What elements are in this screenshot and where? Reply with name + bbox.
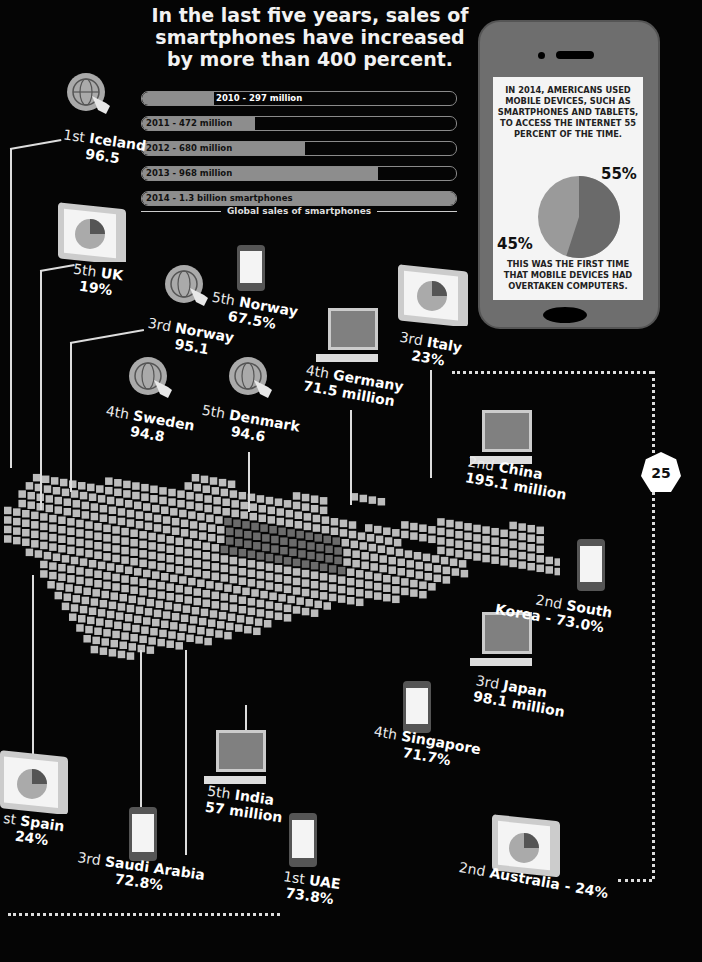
dotted-border	[618, 879, 652, 882]
bar-2011: 2011 - 472 million	[141, 116, 457, 131]
pie-chart-icon	[537, 175, 621, 259]
leader-line	[248, 452, 250, 512]
bar-label: 2012 - 680 million	[146, 142, 232, 155]
leader-line	[430, 370, 432, 478]
bar-2013: 2013 - 968 million	[141, 166, 457, 181]
leader-line	[32, 575, 34, 765]
leader-line	[140, 650, 142, 810]
bar-label: 2011 - 472 million	[146, 117, 232, 130]
home-button-icon	[543, 307, 587, 323]
smartphone-icon	[402, 680, 434, 734]
tablet-pie-icon	[396, 262, 472, 326]
dotted-border	[452, 371, 652, 374]
leader-line	[40, 270, 42, 510]
bar-label: 2010 - 297 million	[216, 92, 302, 105]
smartphone-icon	[128, 806, 160, 862]
caption-text: Global sales of smartphones	[227, 206, 371, 216]
phone-bottom-text: THIS WAS THE FIRST TIME THAT MOBILE DEVI…	[497, 259, 639, 292]
divider	[141, 211, 221, 212]
pct-45: 45%	[497, 235, 533, 253]
bar-label: 2013 - 968 million	[146, 167, 232, 180]
bar-2014: 2014 - 1.3 billion smartphones	[141, 191, 457, 206]
leader-line	[10, 139, 61, 150]
smartphone-icon	[576, 538, 608, 592]
leader-line	[70, 329, 144, 344]
leader-line	[185, 650, 187, 855]
globe-click-icon	[164, 264, 210, 314]
leader-line	[350, 410, 352, 505]
pct-55: 55%	[601, 165, 637, 183]
leader-line	[40, 264, 75, 272]
camera-icon	[538, 52, 545, 59]
dotted-border	[652, 371, 655, 879]
globe-click-icon	[228, 356, 274, 406]
label-iceland: 1st Iceland 96.5	[60, 126, 147, 169]
bar-label: 2014 - 1.3 billion smartphones	[146, 192, 292, 205]
tablet-pie-icon	[56, 200, 128, 262]
phone-top-text: IN 2014, AMERICANS USED MOBILE DEVICES, …	[497, 85, 639, 140]
chart-caption: Global sales of smartphones	[141, 206, 457, 216]
phone-infobox: IN 2014, AMERICANS USED MOBILE DEVICES, …	[478, 20, 660, 329]
smartphone-icon	[236, 244, 268, 292]
tablet-pie-icon	[0, 748, 70, 814]
headline: In the last five years, sales of smartph…	[140, 4, 480, 70]
phone-screen: IN 2014, AMERICANS USED MOBILE DEVICES, …	[493, 77, 643, 300]
bar-2012: 2012 - 680 million	[141, 141, 457, 156]
sales-bar-chart: 2010 - 297 million 2011 - 472 million 20…	[141, 91, 457, 216]
label-germany: 4th Germany 71.5 million	[302, 362, 405, 411]
globe-click-icon	[128, 356, 174, 406]
globe-click-icon	[66, 72, 112, 122]
label-italy: 3rd Italy 23%	[396, 329, 464, 371]
bar-2010: 2010 - 297 million	[141, 91, 457, 106]
divider	[377, 211, 457, 212]
page-number-badge: 25	[641, 452, 681, 492]
label-uk: 5th UK 19%	[70, 261, 124, 300]
dotted-border	[8, 913, 280, 916]
smartphone-icon	[288, 812, 320, 868]
leader-line	[70, 342, 72, 492]
desktop-computer-icon	[316, 306, 382, 366]
desktop-computer-icon	[204, 728, 270, 788]
speaker-icon	[556, 51, 594, 59]
leader-line	[10, 148, 12, 468]
